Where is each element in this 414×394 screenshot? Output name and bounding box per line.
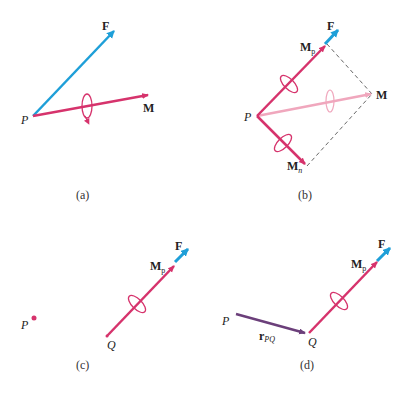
panel-c: F Mp P Q (c) — [20, 239, 188, 372]
label-mp: Mp — [300, 40, 315, 56]
caption-b: (b) — [298, 188, 312, 202]
label-q: Q — [107, 338, 116, 352]
label-m: M — [376, 88, 387, 102]
panel-b: F M P Mp Mn (b) — [243, 19, 387, 202]
label-m: M — [143, 101, 154, 115]
label-p: P — [221, 314, 230, 328]
label-q: Q — [308, 335, 317, 349]
label-mn: Mn — [287, 159, 302, 175]
moment-vector-mn — [257, 116, 305, 164]
position-vector-rpq — [236, 314, 305, 333]
label-p: P — [20, 318, 29, 332]
label-f: F — [175, 239, 182, 253]
panel-d: F Mp P Q rPQ (d) — [221, 237, 390, 372]
caption-c: (c) — [76, 358, 89, 372]
label-f: F — [378, 237, 385, 251]
panel-a: F M P (a) — [20, 19, 154, 202]
figure: F M P (a) F M P Mp Mn (b) — [0, 0, 414, 394]
caption-d: (d) — [300, 358, 314, 372]
label-f: F — [102, 19, 109, 33]
label-mp: Mp — [351, 257, 366, 273]
caption-a: (a) — [76, 188, 89, 202]
label-rpq: rPQ — [259, 329, 275, 344]
label-f: F — [327, 19, 334, 33]
dashed-line-upper — [327, 44, 372, 94]
label-mp: Mp — [150, 259, 165, 275]
label-p: P — [20, 113, 29, 127]
label-p: P — [243, 110, 252, 124]
point-p-dot — [32, 316, 37, 321]
